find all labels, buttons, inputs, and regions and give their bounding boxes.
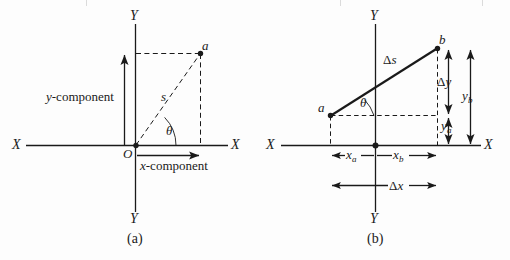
panel-b-y-b-base: y xyxy=(462,88,468,103)
physics-vector-components-figure: X X Y Y O a s θ y-component x-component … xyxy=(0,0,510,260)
panel-b-x-b-subscript: b xyxy=(399,154,404,164)
panel-a-point-a-label: a xyxy=(202,39,209,52)
panel-a-y-component-label: y-component xyxy=(46,90,114,103)
panel-b-y-axis-label-top: Y xyxy=(370,9,378,23)
panel-a-y-axis-label-bottom: Y xyxy=(130,212,138,226)
panel-b-point-b-label: b xyxy=(439,33,446,46)
panel-b-x-axis-label-right: X xyxy=(484,138,493,152)
panel-a-graphics xyxy=(26,24,228,212)
panel-b-y-a-base: y xyxy=(441,118,447,133)
panel-b-vector-delta-s-label: Δs xyxy=(383,53,396,66)
panel-b-x-a-base: x xyxy=(346,147,352,162)
panel-b-y-a-label: ya xyxy=(441,119,452,135)
panel-a-caption: (a) xyxy=(127,232,143,246)
panel-b-y-b-label: yb xyxy=(462,89,473,105)
panel-a-vector-s-label: s xyxy=(161,90,166,103)
panel-b-y-axis-label-bottom: Y xyxy=(370,212,378,226)
panel-a-y-axis-label-top: Y xyxy=(130,9,138,23)
panel-b-graphics xyxy=(281,24,481,212)
panel-b-y-a-subscript: a xyxy=(447,125,452,135)
panel-b-origin-dot xyxy=(373,143,379,149)
panel-b-caption: (b) xyxy=(367,232,383,246)
panel-b-delta-x-label: Δx xyxy=(389,179,403,192)
panel-b-angle-theta-label: θ xyxy=(360,96,366,109)
panel-a-origin-label: O xyxy=(123,147,132,160)
panel-b-y-b-subscript: b xyxy=(468,95,473,105)
panel-a-x-axis-label-left: X xyxy=(12,138,21,152)
panel-a-x-axis-label-right: X xyxy=(231,138,240,152)
panel-b-x-b-base: x xyxy=(393,147,399,162)
panel-a-origin-dot xyxy=(133,143,138,148)
panel-b-point-a-dot xyxy=(328,113,333,118)
panel-a-angle-theta-label: θ xyxy=(166,124,172,137)
panel-b-x-a-subscript: a xyxy=(352,154,357,164)
panel-a-x-component-label: x-component xyxy=(140,159,208,172)
panel-b-point-a-label: a xyxy=(318,101,325,114)
panel-b-x-a-label: xa xyxy=(346,148,357,164)
panel-b-x-b-label: xb xyxy=(393,148,404,164)
panel-b-x-axis-label-left: X xyxy=(266,138,275,152)
figure-vector-graphics xyxy=(0,0,510,260)
panel-b-delta-y-label: Δy xyxy=(437,75,451,88)
